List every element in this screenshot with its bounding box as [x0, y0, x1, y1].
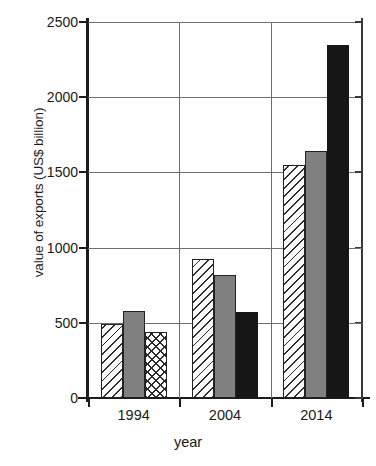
bar [145, 332, 167, 398]
y-axis-tick-label: 0 [24, 391, 78, 405]
y-axis-tick-label: 2000 [24, 90, 78, 104]
x-axis-tick [271, 398, 273, 407]
gridline-vertical [271, 22, 272, 398]
bar [214, 275, 236, 398]
y-axis-tick [79, 322, 88, 324]
y-axis-tick-label: 1000 [24, 241, 78, 255]
y-axis-tick [79, 171, 88, 173]
x-axis-tick [179, 398, 181, 407]
right-axis-tick [355, 171, 363, 173]
right-axis-tick [355, 247, 363, 249]
y-axis-tick [79, 96, 88, 98]
x-axis-tick-label: 2004 [190, 407, 260, 423]
x-axis-tick [88, 398, 90, 407]
plot-area [88, 22, 362, 398]
bar-chart: value of exports (US$ billion) 050010001… [0, 0, 376, 466]
bar [123, 311, 145, 398]
x-axis-tick-label: 1994 [99, 407, 169, 423]
x-axis-tick-label: 2014 [281, 407, 351, 423]
bar [283, 165, 305, 398]
right-axis-tick [355, 96, 363, 98]
y-axis-tick-label: 2500 [24, 15, 78, 29]
x-axis-title: year [0, 434, 376, 450]
gridline-horizontal [88, 22, 362, 23]
gridline-vertical [179, 22, 180, 398]
bar [236, 312, 258, 398]
y-axis-tick-label: 1500 [24, 165, 78, 179]
x-axis-tick [362, 398, 364, 407]
bar [101, 324, 123, 398]
bar [327, 45, 349, 398]
right-axis-tick [355, 21, 363, 23]
bar [305, 151, 327, 398]
y-axis-tick [79, 21, 88, 23]
gridline-horizontal [88, 97, 362, 98]
y-axis-tick [79, 247, 88, 249]
bar [192, 259, 214, 398]
y-axis-tick-label: 500 [24, 316, 78, 330]
y-axis-tick-labels: 05001000150020002500 [20, 0, 78, 466]
y-axis-tick [79, 397, 88, 399]
right-axis-tick [355, 322, 363, 324]
